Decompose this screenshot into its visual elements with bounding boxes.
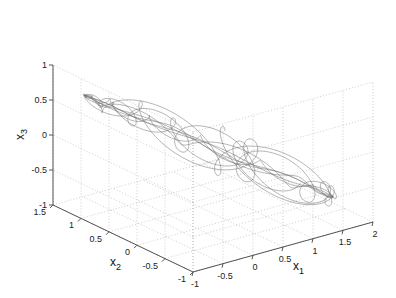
x3-tick-label: 0 <box>42 130 47 140</box>
grid-line <box>109 182 289 232</box>
grid-line <box>143 180 283 247</box>
x2-tick-mark <box>78 218 81 221</box>
grid-line <box>53 155 233 205</box>
x2-tick-mark <box>134 245 137 248</box>
x2-axis-label: x2 <box>110 255 121 272</box>
x3-axis-label: x3 <box>13 129 29 140</box>
x3-tick-label: 1 <box>42 60 47 70</box>
x2-tick-label: 1 <box>69 220 74 230</box>
x2-tick-mark <box>162 259 165 262</box>
x1-tick-label: 0 <box>252 262 257 272</box>
grid-line <box>173 172 313 239</box>
chart-figure: 10.50-0.5-11.510.50-0.5-1-1-0.500.511.52… <box>0 0 396 298</box>
x2-axis-line <box>53 205 193 272</box>
grid-line <box>165 209 345 259</box>
grid-line <box>53 65 193 132</box>
x1-tick-label: -0.5 <box>217 271 233 281</box>
x2-tick-label: 0.5 <box>89 234 102 244</box>
grid-line <box>137 195 317 245</box>
x2-tick-label: -1 <box>178 274 186 284</box>
grid-line <box>53 170 193 237</box>
x1-tick-label: 0.5 <box>279 254 292 264</box>
x1-axis-label: x1 <box>293 259 304 276</box>
grid-line <box>53 135 193 202</box>
plot-3d: 10.50-0.5-11.510.50-0.5-1-1-0.500.511.52… <box>0 0 396 298</box>
x2-tick-label: 1.5 <box>33 207 46 217</box>
x3-tick-label: 0.5 <box>34 95 47 105</box>
x1-tick-label: 1.5 <box>339 237 352 247</box>
x1-tick-label: 2 <box>372 229 377 239</box>
grid-line <box>203 163 343 230</box>
grid-line <box>53 100 193 167</box>
x2-tick-label: -0.5 <box>142 261 158 271</box>
grid-line <box>113 188 253 255</box>
grid-line <box>81 168 261 218</box>
x3-tick-label: -0.5 <box>31 165 47 175</box>
x1-tick-label: 1 <box>312 246 317 256</box>
x1-tick-label: -1 <box>191 279 199 289</box>
x2-tick-label: 0 <box>125 247 130 257</box>
grid-line <box>83 197 223 264</box>
grid-line <box>193 82 373 132</box>
x2-tick-mark <box>106 232 109 235</box>
